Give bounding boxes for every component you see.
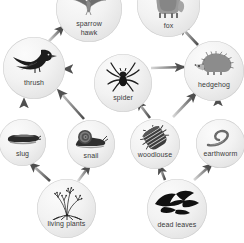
node-label-fox: fox: [137, 22, 200, 30]
node-label-snail: snail: [67, 152, 115, 160]
woodlouse-icon: [130, 125, 180, 151]
node-label-woodlouse: woodlouse: [130, 151, 180, 159]
fox-icon: [137, 0, 200, 20]
node-dead-leaves[interactable]: dead leaves: [147, 179, 207, 239]
arrow-woodlouse-to-hedgehog: [173, 93, 196, 117]
node-slug[interactable]: slug: [0, 119, 46, 166]
node-hedgehog[interactable]: hedgehog: [184, 41, 244, 101]
node-label-earthworm: earthworm: [196, 150, 244, 158]
food-web-diagram: sparrow hawk fox: [0, 0, 244, 243]
node-snail[interactable]: snail: [67, 120, 115, 168]
node-label-spider: spider: [94, 94, 152, 102]
snail-icon: [67, 128, 115, 150]
sparrow-hawk-icon: [56, 0, 122, 22]
node-label-thrush: thrush: [3, 79, 65, 87]
dead-leaves-icon: [147, 189, 207, 219]
node-label-hedgehog: hedgehog: [184, 81, 244, 89]
node-label-dead-leaves: dead leaves: [147, 221, 207, 229]
arrow-dead-leaves-to-earthworm: [194, 164, 212, 180]
node-label-sparrow-hawk: sparrow hawk: [56, 20, 122, 37]
spider-icon: [94, 62, 152, 92]
node-thrush[interactable]: thrush: [3, 37, 65, 99]
arrow-snail-to-thrush: [58, 90, 84, 119]
living-plants-icon: [37, 186, 96, 220]
slug-icon: [0, 129, 46, 147]
node-label-living-plants: living plants: [37, 220, 96, 228]
arrow-spider-to-hedgehog: [151, 67, 184, 68]
node-living-plants[interactable]: living plants: [37, 179, 96, 238]
arrow-living-plants-to-slug: [30, 163, 50, 181]
node-spider[interactable]: spider: [94, 54, 152, 112]
earthworm-icon: [196, 127, 244, 149]
thrush-icon: [3, 45, 65, 79]
node-label-slug: slug: [0, 150, 46, 158]
node-sparrow-hawk[interactable]: sparrow hawk: [56, 0, 122, 42]
node-woodlouse[interactable]: woodlouse: [130, 119, 180, 169]
node-earthworm[interactable]: earthworm: [196, 119, 244, 168]
hedgehog-icon: [184, 50, 244, 78]
